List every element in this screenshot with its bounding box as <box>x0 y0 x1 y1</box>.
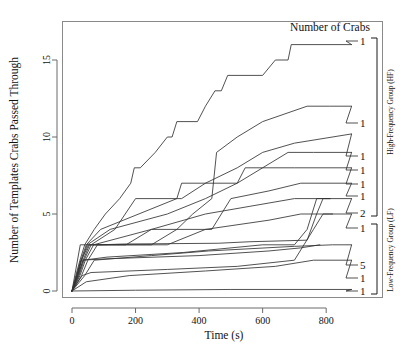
y-tick-label: 10 <box>41 132 52 142</box>
legend-count-lf-4: 1 <box>360 285 366 297</box>
legend-count-lf-2: 5 <box>360 259 366 271</box>
legend-count-lf-3: 1 <box>360 272 366 284</box>
y-tick-label: 15 <box>41 55 52 65</box>
y-tick-label: 0 <box>41 289 52 294</box>
group-label-hf: High-Frequency Group (HF) <box>386 69 395 155</box>
legend-count-hf-1: 1 <box>360 35 366 47</box>
legend-count-hf-2: 1 <box>360 117 366 129</box>
y-axis-title: Number of Templates Crabs Passed Through <box>8 57 21 263</box>
y-tick-label: 5 <box>41 212 52 217</box>
legend-count-hf-5: 1 <box>360 178 366 190</box>
x-tick-label: 600 <box>255 315 270 326</box>
line-chart-svg: 051015 0200400600800 11111121511 Number … <box>0 0 419 351</box>
legend-count-lf-1: 1 <box>360 222 366 234</box>
x-axis-title: Time (s) <box>205 329 244 342</box>
x-tick-label: 400 <box>192 315 207 326</box>
legend-count-hf-3: 1 <box>360 150 366 162</box>
group-label-lf: Low-Frequency Group (LF) <box>386 208 395 292</box>
x-tick-label: 200 <box>128 315 143 326</box>
legend-count-hf-6: 1 <box>360 190 366 202</box>
chart-figure: 051015 0200400600800 11111121511 Number … <box>0 0 419 351</box>
x-tick-label: 800 <box>319 315 334 326</box>
legend-count-hf-7: 2 <box>360 207 366 219</box>
legend-title: Number of Crabs <box>290 21 370 33</box>
legend-count-hf-4: 1 <box>360 164 366 176</box>
x-tick-label: 0 <box>70 315 75 326</box>
